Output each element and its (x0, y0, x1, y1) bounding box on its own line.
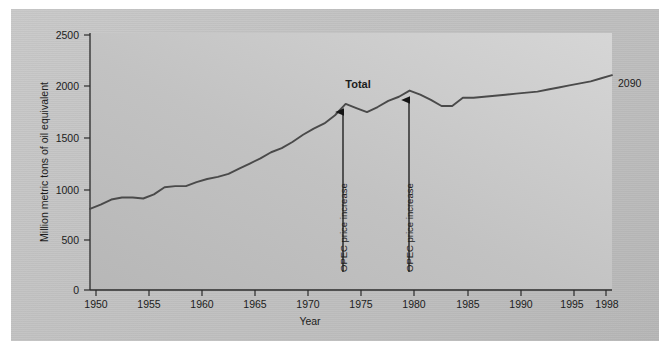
end-value-label: 2090 (618, 77, 642, 89)
annotation-opec-1-label: OPEC price increase (338, 183, 349, 272)
y-tick-label-0: 0 (73, 284, 79, 296)
x-tick-label-1960: 1960 (190, 298, 214, 310)
x-tick-label-1980: 1980 (402, 298, 426, 310)
x-tick-label-1995: 1995 (560, 298, 584, 310)
figure-root: 2500 2000 1500 1000 500 0 1950 1955 1960… (0, 0, 671, 356)
y-axis-ticks (84, 35, 90, 290)
plot-area (90, 33, 612, 290)
y-tick-label-2000: 2000 (56, 80, 80, 92)
y-axis-tick-labels: 2500 2000 1500 1000 500 0 (56, 29, 80, 296)
y-tick-label-2500: 2500 (56, 29, 80, 41)
x-tick-label-1990: 1990 (509, 298, 533, 310)
y-tick-label-1000: 1000 (56, 184, 80, 196)
x-tick-label-1985: 1985 (456, 298, 480, 310)
x-tick-label-1975: 1975 (349, 298, 373, 310)
x-tick-label-1955: 1955 (137, 298, 161, 310)
y-axis-title: Million metric tons of oil equivalent (38, 82, 50, 242)
y-tick-label-500: 500 (61, 234, 79, 246)
series-label-total: Total (345, 78, 370, 90)
x-axis-ticks (96, 290, 606, 296)
x-tick-label-1998: 1998 (595, 298, 619, 310)
x-tick-label-1965: 1965 (243, 298, 267, 310)
x-axis-title: Year (299, 315, 321, 327)
annotation-opec-2-label: OPEC price increase (404, 183, 415, 272)
x-tick-label-1970: 1970 (296, 298, 320, 310)
y-tick-label-1500: 1500 (56, 132, 80, 144)
line-chart: 2500 2000 1500 1000 500 0 1950 1955 1960… (0, 0, 671, 356)
x-axis-tick-labels: 1950 1955 1960 1965 1970 1975 1980 1985 … (84, 298, 619, 310)
x-tick-label-1950: 1950 (84, 298, 108, 310)
